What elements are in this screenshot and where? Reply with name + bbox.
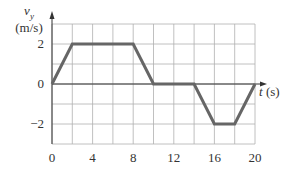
x-tick-label: 0 [42,151,62,164]
y-tick-label: 2 [20,37,44,50]
y-axis-label: vy (m/s) [14,4,44,34]
x-tick-label: 16 [204,151,224,164]
x-tick-label: 20 [245,151,265,164]
x-tick-label: 8 [123,151,143,164]
x-axis-unit: (s) [266,84,280,99]
y-axis-unit: (m/s) [15,20,42,35]
y-tick-label: 0 [20,77,44,90]
y-axis-arrow-icon [50,11,55,19]
x-tick-label: 4 [83,151,103,164]
x-axis-label: t (s) [259,85,280,98]
y-tick-label: −2 [20,117,44,130]
x-axis-var: t [259,84,263,99]
x-tick-label: 12 [164,151,184,164]
